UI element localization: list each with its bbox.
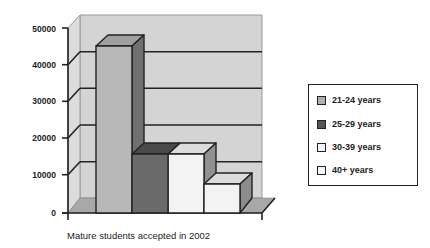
legend-item-25-29: 25-29 years (317, 119, 381, 129)
legend-swatch (317, 120, 326, 129)
legend-item-21-24: 21-24 years (317, 95, 381, 105)
svg-text:10000: 10000 (32, 170, 56, 180)
legend-label: 21-24 years (332, 95, 381, 105)
svg-text:40000: 40000 (32, 60, 56, 70)
bar-40-plus-years (204, 173, 252, 213)
svg-text:0: 0 (51, 208, 56, 218)
legend-label: 40+ years (332, 165, 373, 175)
legend: 21-24 years 25-29 years 30-39 years 40+ … (308, 84, 418, 186)
legend-swatch (317, 166, 326, 175)
chart-caption: Mature students accepted in 2002 (67, 230, 210, 241)
y-axis (62, 28, 68, 220)
legend-swatch (317, 143, 326, 152)
svg-text:50000: 50000 (32, 24, 56, 34)
legend-item-30-39: 30-39 years (317, 142, 381, 152)
legend-item-40-plus: 40+ years (317, 165, 373, 175)
legend-label: 30-39 years (332, 142, 381, 152)
legend-label: 25-29 years (332, 119, 381, 129)
side-wall (68, 15, 80, 213)
y-tick-labels: 0 10000 20000 30000 40000 50000 (32, 24, 56, 218)
legend-swatch (317, 96, 326, 105)
svg-text:30000: 30000 (32, 96, 56, 106)
svg-text:20000: 20000 (32, 133, 56, 143)
